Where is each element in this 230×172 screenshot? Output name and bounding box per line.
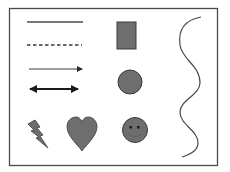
circle[interactable] bbox=[118, 70, 142, 94]
square[interactable] bbox=[117, 22, 136, 49]
smiley-right-eye bbox=[137, 126, 140, 129]
smiley-left-eye bbox=[130, 126, 133, 129]
drawing-canvas bbox=[0, 0, 230, 172]
smiley-face[interactable] bbox=[123, 118, 148, 143]
smiley-head bbox=[123, 118, 148, 143]
